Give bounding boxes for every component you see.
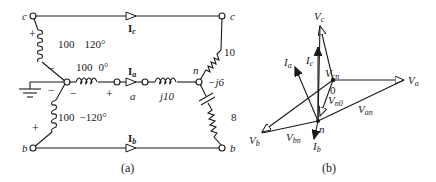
resistor-10 bbox=[200, 18, 222, 80]
polarity-a-minus: − bbox=[70, 86, 77, 100]
inductor-j10 bbox=[155, 78, 176, 84]
label-ib: Ib bbox=[312, 140, 321, 154]
label-b-right: b bbox=[230, 142, 236, 154]
label-vb: Vb bbox=[249, 134, 260, 148]
label-a: a bbox=[130, 90, 136, 102]
label-current-c: Ic bbox=[128, 22, 136, 36]
node-a-right bbox=[142, 79, 148, 85]
label-vcn: Vcn bbox=[325, 67, 339, 81]
label-va: Va bbox=[408, 74, 419, 88]
resistor-8 bbox=[208, 103, 222, 146]
node-c-left bbox=[30, 13, 36, 19]
polarity-a-plus: + bbox=[106, 87, 113, 101]
label-vn0: Vn0 bbox=[328, 94, 343, 108]
node-n bbox=[196, 79, 202, 85]
label-vbn: Vbn bbox=[286, 131, 301, 145]
node-a-left bbox=[114, 79, 120, 85]
source-a-coil bbox=[76, 78, 97, 84]
source-b-coil bbox=[52, 100, 57, 132]
label-j10: j10 bbox=[158, 90, 175, 102]
label-resistor-8: 8 bbox=[231, 111, 237, 123]
label-c-left: c bbox=[22, 10, 27, 22]
polarity-c-minus: − bbox=[48, 61, 55, 75]
phasor-diagram: Vc Va Vb Ic Ia Ib Vcn Vn0 Van Vbn 0 n (b… bbox=[249, 10, 419, 175]
source-b-value: 100−120° bbox=[58, 111, 107, 123]
node-b-left bbox=[30, 145, 36, 151]
label-van: Van bbox=[358, 103, 373, 117]
label-origin: 0 bbox=[330, 84, 336, 96]
label-neutral: n bbox=[319, 123, 325, 135]
source-c-value: 100120° bbox=[58, 38, 105, 50]
label-resistor-10: 10 bbox=[224, 46, 236, 58]
label-current-b: Ib bbox=[128, 132, 136, 146]
label-c-right: c bbox=[230, 10, 235, 22]
label-capacitor-j6: −j6 bbox=[208, 76, 224, 88]
label-ic: Ic bbox=[305, 54, 314, 68]
node-b-right bbox=[219, 145, 225, 151]
source-c-coil bbox=[38, 30, 43, 62]
phasor-ib bbox=[314, 121, 318, 139]
label-ia: Ia bbox=[283, 56, 292, 70]
circuit-diagram: c c b b a n Ic Ia Ib 100120° 1000° 100−1… bbox=[19, 10, 237, 175]
source-a-value: 1000° bbox=[76, 61, 108, 73]
polarity-b-plus: + bbox=[32, 121, 39, 135]
polarity-b-minus: − bbox=[48, 83, 55, 97]
figure: c c b b a n Ic Ia Ib 100120° 1000° 100−1… bbox=[0, 0, 436, 182]
label-vc: Vc bbox=[314, 10, 325, 24]
node-source-neutral bbox=[64, 79, 70, 85]
label-current-a: Ia bbox=[128, 65, 136, 79]
current-arrow-a bbox=[126, 78, 136, 86]
polarity-c-plus: + bbox=[29, 27, 36, 41]
label-b-left: b bbox=[22, 142, 28, 154]
label-n: n bbox=[193, 64, 199, 76]
caption-a: (a) bbox=[121, 161, 134, 175]
current-arrow-c bbox=[126, 12, 136, 20]
caption-b: (b) bbox=[322, 161, 336, 175]
node-c-right bbox=[219, 13, 225, 19]
